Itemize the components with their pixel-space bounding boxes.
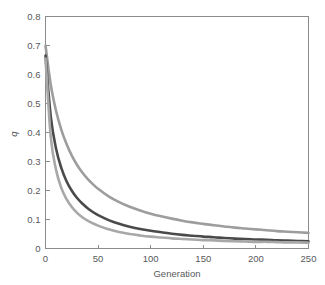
y-tick-label: 0.4: [27, 127, 40, 138]
chart-plot-area: 050100150200250 00.10.20.30.40.50.60.70.…: [0, 0, 325, 285]
y-tick-label: 0.5: [27, 98, 40, 109]
x-tick-label: 150: [195, 253, 211, 264]
y-tick-label: 0: [35, 243, 40, 254]
y-tick-label: 0.6: [27, 69, 40, 80]
y-tick-label: 0.8: [27, 11, 40, 22]
y-axis-tick-labels: 00.10.20.30.40.50.60.70.8: [27, 11, 40, 254]
x-tick-label: 200: [248, 253, 264, 264]
x-axis-title: Generation: [153, 268, 200, 279]
y-tick-label: 0.2: [27, 185, 40, 196]
y-axis-title: q: [8, 131, 19, 137]
chart-figure: 050100150200250 00.10.20.30.40.50.60.70.…: [0, 0, 325, 285]
x-tick-label: 0: [43, 253, 48, 264]
x-tick-label: 50: [93, 253, 104, 264]
y-tick-label: 0.1: [27, 214, 40, 225]
y-tick-label: 0.3: [27, 156, 40, 167]
y-tick-label: 0.7: [27, 40, 40, 51]
x-tick-label: 250: [301, 253, 317, 264]
x-tick-label: 100: [143, 253, 159, 264]
